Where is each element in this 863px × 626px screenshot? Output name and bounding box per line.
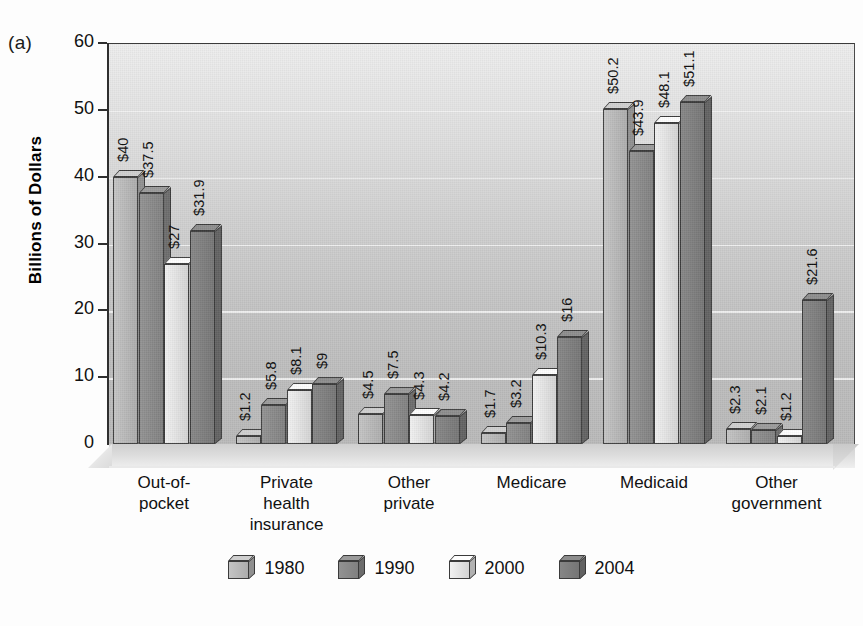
legend-label: 1990 [374, 558, 414, 579]
bar: $7.5 [384, 394, 409, 444]
bar-value-label: $8.1 [288, 346, 304, 375]
bar: $1.7 [481, 433, 506, 444]
legend-swatch-icon [228, 561, 249, 579]
bar: $1.2 [777, 436, 802, 444]
chart-floor [109, 444, 855, 468]
legend-swatch-side-face [249, 555, 255, 578]
legend-item-2004[interactable]: 2004 [559, 558, 635, 579]
bar-front-face [384, 394, 409, 444]
bar: $48.1 [654, 123, 679, 444]
legend-label: 2000 [485, 558, 525, 579]
bar-value-label: $1.2 [237, 392, 253, 421]
bar: $16 [557, 337, 582, 444]
bar: $43.9 [629, 151, 654, 444]
bar-side-face [827, 294, 834, 444]
y-axis-tick-label: 50 [52, 98, 94, 119]
bar-value-label: $9 [314, 353, 330, 369]
y-axis-tick [98, 243, 107, 245]
bar-value-label: $27 [166, 224, 182, 249]
category-label-line: Medicaid [584, 472, 724, 493]
bar-front-face [506, 423, 531, 444]
y-axis-tick [98, 109, 107, 111]
y-axis-line [107, 43, 109, 445]
bar-front-face [777, 436, 802, 444]
y-axis-tick-label: 0 [52, 432, 94, 453]
bar-value-label: $3.2 [508, 379, 524, 408]
bar-front-face [435, 416, 460, 444]
bar-front-face [409, 415, 434, 444]
bar: $37.5 [139, 193, 164, 444]
legend-item-2000[interactable]: 2000 [449, 558, 525, 579]
bar-side-face [215, 225, 222, 444]
bar: $4.3 [409, 415, 434, 444]
legend-item-1980[interactable]: 1980 [228, 558, 304, 579]
bar-front-face [654, 123, 679, 444]
bar: $9 [312, 384, 337, 444]
bar-front-face [358, 414, 383, 444]
plot-wrapper: $40$37.5$27$31.9$1.2$5.8$8.1$9$4.5$7.5$4… [0, 0, 863, 480]
bar-side-face [582, 331, 589, 444]
category-label-line: Other [339, 472, 479, 493]
bar: $3.2 [506, 423, 531, 444]
category-label-line: insurance [217, 514, 357, 535]
category-label-line: government [707, 493, 847, 514]
plot-area: $40$37.5$27$31.9$1.2$5.8$8.1$9$4.5$7.5$4… [109, 43, 855, 444]
legend-swatch-icon [449, 561, 470, 579]
y-axis-tick-label: 60 [52, 31, 94, 52]
chart-legend: 1980199020002004 [0, 548, 863, 588]
y-axis-tick-label: 30 [52, 232, 94, 253]
bar-value-label: $1.2 [778, 392, 794, 421]
y-axis-tick-labels: 6050403020100 [52, 0, 94, 480]
bar: $4.5 [358, 414, 383, 444]
gridline [109, 178, 854, 180]
bar-value-label: $7.5 [385, 350, 401, 379]
category-label: Otherprivate [339, 472, 479, 514]
bar-front-face [287, 390, 312, 444]
category-label: Othergovernment [707, 472, 847, 514]
bar-value-label: $50.2 [605, 57, 621, 94]
bar-front-face [603, 109, 628, 445]
bar-front-face [629, 151, 654, 444]
bar-front-face [190, 231, 215, 444]
legend-label: 1980 [264, 558, 304, 579]
bar-front-face [113, 177, 138, 444]
category-label-line: health [217, 493, 357, 514]
bar: $50.2 [603, 109, 628, 445]
y-axis-tick [98, 376, 107, 378]
bar: $2.1 [751, 430, 776, 444]
bar: $1.2 [236, 436, 261, 444]
bar-value-label: $21.6 [804, 248, 820, 285]
bar: $2.3 [726, 429, 751, 444]
bar: $5.8 [261, 405, 286, 444]
bar-front-face [532, 375, 557, 444]
legend-label: 2004 [595, 558, 635, 579]
bar-value-label: $10.3 [533, 323, 549, 360]
bar-value-label: $48.1 [656, 71, 672, 108]
category-label-line: Medicare [462, 472, 602, 493]
bar-value-label: $4.5 [360, 370, 376, 399]
category-label-line: Private [217, 472, 357, 493]
bar: $10.3 [532, 375, 557, 444]
bar-front-face [236, 436, 261, 444]
bar-side-face [460, 410, 467, 444]
bar: $27 [164, 264, 189, 444]
bar: $8.1 [287, 390, 312, 444]
bar-front-face [139, 193, 164, 444]
bar-value-label: $4.3 [411, 372, 427, 401]
bar-front-face [751, 430, 776, 444]
category-labels: Out-of-pocketPrivatehealthinsuranceOther… [0, 472, 863, 542]
category-label: Medicare [462, 472, 602, 493]
legend-item-1990[interactable]: 1990 [338, 558, 414, 579]
bar-front-face [481, 433, 506, 444]
bar-value-label: $5.8 [263, 362, 279, 391]
bar: $40 [113, 177, 138, 444]
category-label-line: Other [707, 472, 847, 493]
bar-front-face [726, 429, 751, 444]
bar-side-face [705, 97, 712, 444]
bar-front-face [164, 264, 189, 444]
bar-value-label: $16 [559, 298, 575, 323]
bar-value-label: $2.1 [753, 386, 769, 415]
bar-value-label: $4.2 [436, 372, 452, 401]
category-label-line: private [339, 493, 479, 514]
legend-swatch-side-face [359, 555, 365, 578]
